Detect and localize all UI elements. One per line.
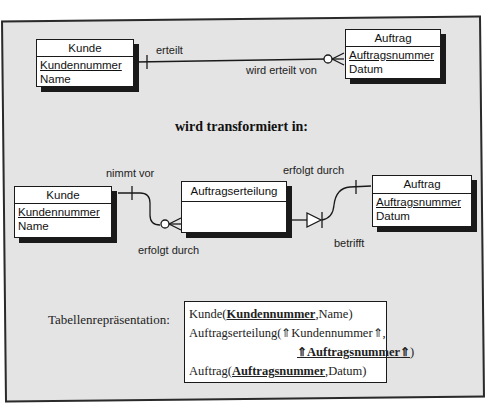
foreign-key-arrow-icon: ⇑ <box>400 345 410 359</box>
entity-title: Auftrag <box>373 176 471 194</box>
relation-label-betrifft: betrifft <box>334 237 364 249</box>
table-representation-box: Kunde(Kundennummer,Name) Auftragserteilu… <box>184 301 387 383</box>
table-name: Auftrag( <box>189 364 232 378</box>
bottom-right-relationship-line <box>287 180 371 228</box>
entity-attribute-pk: Kundennummer <box>40 58 130 72</box>
relation-label-erteilt: erteilt <box>156 44 183 56</box>
entity-title: Kunde <box>37 40 133 57</box>
entity-auftragserteilung: Auftragserteilung <box>181 181 287 233</box>
close-paren: ) <box>410 345 414 359</box>
entity-kunde-bottom: Kunde Kundennummer Name <box>14 186 112 238</box>
relation-label-wird-erteilt-von: wird erteilt von <box>246 64 317 76</box>
entity-attribute-pk: Kundennummer <box>18 205 108 219</box>
primary-foreign-key: Auftragsnummer <box>307 345 400 359</box>
relation-label-nimmt-vor: nimmt vor <box>106 167 154 179</box>
primary-key: Kundennummer <box>227 307 316 321</box>
entity-auftrag-bottom: Auftrag Auftragsnummer Datum <box>372 175 472 227</box>
entity-attribute: Name <box>18 219 108 233</box>
entity-attribute-pk: Auftragsnummer <box>376 195 468 209</box>
separator: , <box>383 326 386 340</box>
entity-auftrag-top: Auftrag Auftragsnummer Datum <box>345 29 441 79</box>
entity-attribute: Datum <box>376 209 468 223</box>
table-row-auftragserteilung-cont: ⇑Auftragsnummer⇑) <box>189 343 382 362</box>
relation-label-erfolgt-durch-right: erfolgt durch <box>283 164 344 176</box>
table-rest: ,Name) <box>315 307 352 321</box>
entity-title: Auftragserteilung <box>182 182 286 202</box>
foreign-key: Kundennummer <box>291 326 372 340</box>
foreign-key-arrow-icon: ⇑ <box>281 326 291 340</box>
table-rest: ,Datum) <box>325 364 366 378</box>
entity-attribute: Name <box>40 72 130 86</box>
entity-kunde-top: Kunde Kundennummer Name <box>36 39 134 87</box>
foreign-key-arrow-icon: ⇑ <box>297 345 307 359</box>
relation-label-erfolgt-durch-left: erfolgt durch <box>138 244 199 256</box>
bottom-left-relationship-line <box>118 186 181 230</box>
entity-title: Kunde <box>15 187 111 204</box>
entity-attribute-pk: Auftragsnummer <box>349 48 437 62</box>
table-row-auftragserteilung: Auftragserteilung(⇑Kundennummer⇑, <box>189 324 382 343</box>
entity-title: Auftrag <box>346 30 440 47</box>
entity-attribute: Datum <box>349 62 437 76</box>
table-row-auftrag: Auftrag(Auftragsnummer,Datum) <box>189 362 382 381</box>
foreign-key-arrow-icon: ⇑ <box>373 326 383 340</box>
table-row-kunde: Kunde(Kundennummer,Name) <box>189 305 382 324</box>
primary-key: Auftragsnummer <box>232 364 325 378</box>
transform-heading: wird transformiert in: <box>175 119 308 135</box>
table-representation-label: Tabellenrepräsentation: <box>48 312 170 328</box>
table-name: Kunde( <box>189 307 227 321</box>
table-name: Auftragserteilung( <box>189 326 281 340</box>
